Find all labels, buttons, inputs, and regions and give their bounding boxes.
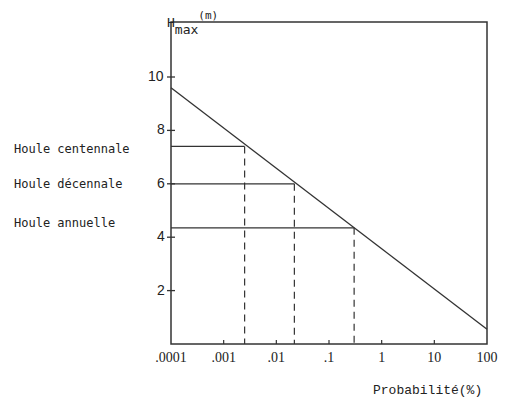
x-tick-label: .1: [324, 350, 335, 366]
plot-frame: [171, 22, 487, 344]
hmax-line: [171, 88, 487, 330]
annotation-label: Houle décennale: [14, 177, 122, 191]
annotation-label: Houle centennale: [14, 142, 130, 156]
y-axis-title: Hmax(m): [167, 12, 218, 34]
y-tick-label: 4: [157, 228, 165, 244]
y-tick-label: 6: [157, 175, 165, 191]
x-tick-label: .01: [268, 350, 286, 366]
x-tick-label: .0001: [155, 350, 187, 366]
reference-lines: [171, 146, 354, 344]
y-tick-label: 8: [157, 121, 165, 137]
chart-canvas: [0, 0, 510, 409]
y-tick-label: 10: [148, 68, 164, 84]
x-axis-title: Probabilité(%): [373, 383, 482, 398]
x-tick-label: 1: [378, 350, 385, 366]
y-tick-label: 2: [157, 282, 165, 298]
x-tick-label: 100: [477, 350, 498, 366]
x-tick-label: .001: [211, 350, 236, 366]
annotation-label: Houle annuelle: [14, 216, 115, 230]
x-tick-label: 10: [427, 350, 441, 366]
